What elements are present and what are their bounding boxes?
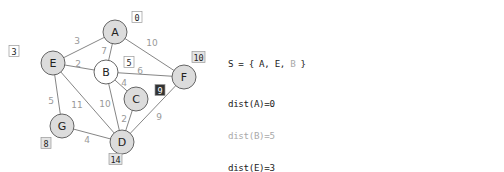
svg-text:8: 8 bbox=[43, 139, 48, 149]
node-label: C bbox=[132, 93, 140, 106]
dist-badge-F: 10 bbox=[192, 52, 205, 63]
edge-weight-E-D: 11 bbox=[71, 100, 82, 110]
svg-text:10: 10 bbox=[193, 53, 203, 63]
edge-weight-E-B: 2 bbox=[75, 59, 81, 69]
node-E: E bbox=[41, 51, 65, 75]
set-prefix: S = { A, E, bbox=[228, 58, 290, 69]
dist-badge-E: 3 bbox=[9, 46, 19, 57]
node-label: D bbox=[118, 136, 126, 149]
edge-weight-B-F: 6 bbox=[137, 66, 143, 76]
dist-badge-D: 14 bbox=[109, 154, 122, 165]
edge-weight-B-D: 10 bbox=[99, 99, 111, 109]
node-label: A bbox=[111, 26, 119, 39]
node-label: B bbox=[102, 66, 110, 79]
edge-weight-A-F: 10 bbox=[146, 38, 158, 48]
dist-badge-G: 8 bbox=[41, 138, 51, 149]
edge-weight-E-G: 5 bbox=[48, 96, 54, 106]
dist-badge-A: 0 bbox=[132, 12, 142, 23]
dist-badge-C: 9 bbox=[155, 85, 165, 96]
node-label: F bbox=[181, 71, 187, 84]
visited-set-line: S = { A, E, B } bbox=[228, 59, 492, 70]
dist-line: dist(E)=3 bbox=[228, 163, 492, 172]
edge-weight-G-D: 4 bbox=[84, 135, 90, 145]
nodes-layer: ABCDEFG bbox=[41, 20, 196, 154]
node-B: B bbox=[94, 60, 118, 84]
dijkstra-panel: S = { A, E, B } dist(A)=0 dist(B)=5 dist… bbox=[228, 38, 492, 172]
dist-line: dist(A)=0 bbox=[228, 99, 492, 110]
set-suffix: } bbox=[295, 58, 305, 69]
edge-weight-A-E: 3 bbox=[74, 36, 80, 46]
edge-weight-A-B: 7 bbox=[101, 46, 107, 56]
svg-text:3: 3 bbox=[11, 47, 16, 57]
edge-weight-C-D: 2 bbox=[121, 114, 127, 124]
node-F: F bbox=[172, 65, 196, 89]
node-A: A bbox=[103, 20, 127, 44]
node-D: D bbox=[110, 130, 134, 154]
svg-text:0: 0 bbox=[134, 13, 139, 23]
node-label: E bbox=[50, 57, 57, 70]
dist-line: dist(B)=5 bbox=[228, 131, 492, 142]
edge-weight-F-D: 9 bbox=[156, 112, 162, 122]
svg-text:5: 5 bbox=[126, 58, 131, 68]
node-C: C bbox=[124, 87, 148, 111]
edge-weight-B-C: 4 bbox=[121, 78, 127, 88]
dist-badge-B: 5 bbox=[124, 57, 134, 68]
node-label: G bbox=[58, 120, 67, 133]
svg-text:14: 14 bbox=[110, 155, 120, 165]
svg-text:9: 9 bbox=[157, 86, 162, 96]
graph-diagram: 371026410511294 ABCDEFG 059143108 bbox=[0, 0, 210, 172]
node-G: G bbox=[50, 114, 74, 138]
